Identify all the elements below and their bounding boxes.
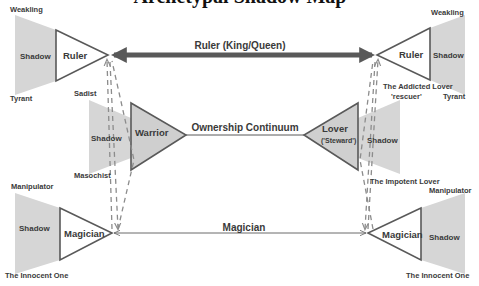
magician-left-shadow-label: Shadow [19, 224, 50, 233]
ruler-right-shadow-top: Weakling [431, 8, 464, 17]
ruler-left-shadow-top: Weakling [10, 5, 43, 14]
magician-right-label: Magician [382, 229, 423, 240]
magician-right-shadow-bottom: The Innocent One [406, 271, 469, 280]
magician-left-shadow-top: Manipulator [11, 182, 54, 191]
warrior-shadow-label: Shadow [91, 134, 122, 143]
lover-shadow-top-sub: 'rescuer' [391, 92, 422, 101]
lover-shadow-label: Shadow [367, 136, 398, 145]
lover-shadow-bottom: The Impotent Lover [370, 177, 440, 186]
magician-right-shadow-top: Manipulator [429, 186, 472, 195]
warrior-shadow-bottom: Masochist [74, 171, 111, 180]
magician-right-shadow-label: Shadow [429, 233, 460, 242]
archetype-diagram: Archetypal Shadow Map Ruler (King/Queen)… [0, 0, 479, 286]
magician-connector-label: Magician [223, 222, 266, 233]
warrior-shadow-top: Sadist [74, 89, 97, 98]
page-title: Archetypal Shadow Map [134, 0, 347, 8]
warrior-label: Warrior [135, 127, 169, 138]
ruler-connector-label: Ruler (King/Queen) [194, 40, 285, 51]
ruler-right-shadow-label: Shadow [433, 51, 464, 60]
lover-label: Lover [322, 123, 348, 134]
ruler-right-label: Ruler [399, 49, 424, 60]
ruler-left-label: Ruler [63, 50, 88, 61]
magician-left-label: Magician [64, 228, 105, 239]
lover-shadow-top: The Addicted Lover [383, 82, 453, 91]
ownership-connector-label: Ownership Continuum [191, 122, 298, 133]
ruler-left-shadow-bottom: Tyrant [10, 94, 33, 103]
shadow-magician-left [15, 193, 60, 274]
ruler-left-shadow-label: Shadow [20, 52, 51, 61]
ruler-right-shadow-bottom: Tyrant [443, 92, 466, 101]
magician-left-shadow-bottom: The Innocent One [5, 271, 68, 280]
lover-sublabel: ('Steward') [321, 137, 356, 145]
